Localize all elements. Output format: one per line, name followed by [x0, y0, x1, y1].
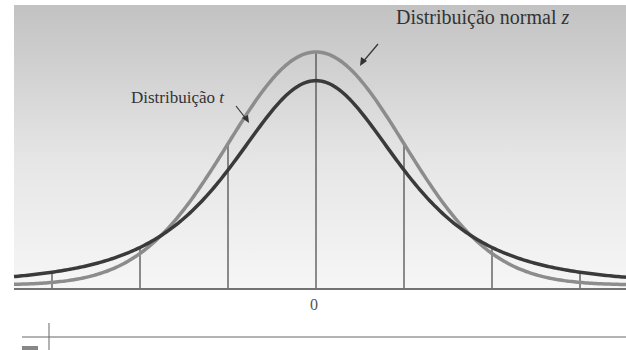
- t-label-text: Distribuição: [131, 88, 219, 107]
- t-distribution-label: Distribuição t: [131, 88, 224, 108]
- normal-label-variable: z: [562, 6, 570, 28]
- normal-label-text: Distribuição normal: [396, 6, 562, 28]
- normal-distribution-label: Distribuição normal z: [396, 6, 569, 29]
- plot-background: [14, 5, 626, 288]
- corner-mark: [22, 346, 38, 350]
- t-label-variable: t: [219, 88, 224, 107]
- x-tick-zero: 0: [310, 296, 318, 314]
